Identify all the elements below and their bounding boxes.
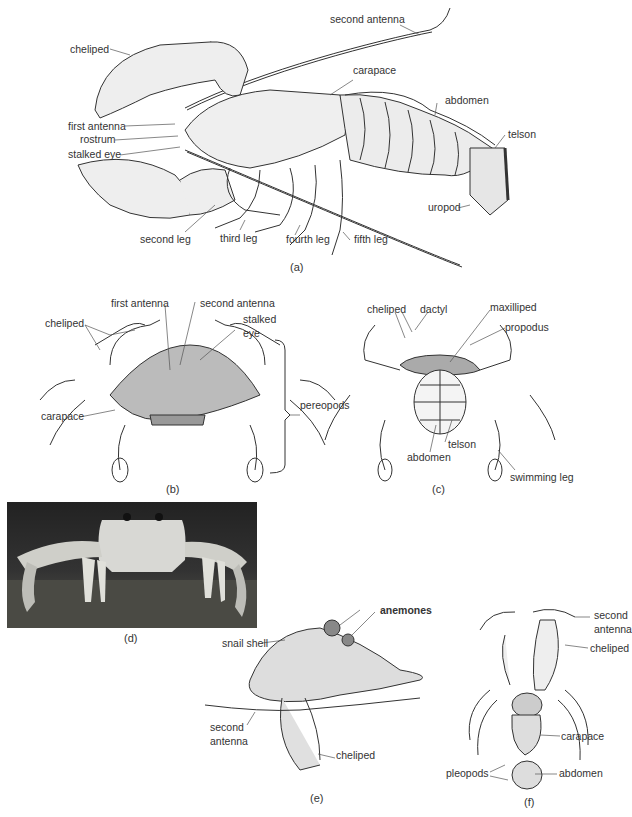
ghost-crab-photo xyxy=(7,502,257,628)
label-second-antenna: second antenna xyxy=(200,298,275,310)
hermit-crab-body-drawing xyxy=(469,609,588,789)
label-stalked-eye: stalked eye xyxy=(68,149,121,161)
label-carapace: carapace xyxy=(561,731,604,743)
label-maxilliped: maxilliped xyxy=(490,302,537,314)
lobster-drawing xyxy=(78,8,508,267)
label-cheliped: cheliped xyxy=(70,44,109,56)
label-antenna: antenna xyxy=(594,624,632,636)
caption-a: (a) xyxy=(290,261,303,273)
label-abdomen: abdomen xyxy=(559,768,603,780)
label-telson: telson xyxy=(508,129,536,141)
label-abdomen: abdomen xyxy=(445,95,489,107)
crab-dorsal-drawing xyxy=(40,320,335,482)
label-abdomen: abdomen xyxy=(407,452,451,464)
label-antenna: antenna xyxy=(210,736,248,748)
label-pleopods: pleopods xyxy=(446,768,489,780)
caption-d: (d) xyxy=(124,632,137,644)
label-pereopods: pereopods xyxy=(300,400,350,412)
caption-c: (c) xyxy=(432,483,445,495)
label-stalked: stalked xyxy=(243,314,276,326)
label-swimming-leg: swimming leg xyxy=(510,472,574,484)
caption-b: (b) xyxy=(166,483,179,495)
label-first-antenna: first antenna xyxy=(111,298,169,310)
label-propodus: propodus xyxy=(505,322,549,334)
label-carapace: carapace xyxy=(41,411,84,423)
label-second: second xyxy=(594,610,628,622)
label-fifth-leg: fifth leg xyxy=(354,234,388,246)
label-cheliped: cheliped xyxy=(45,318,84,330)
label-telson: telson xyxy=(448,439,476,451)
label-eye: eye xyxy=(243,328,260,340)
label-third-leg: third leg xyxy=(220,233,257,245)
label-cheliped: cheliped xyxy=(367,304,406,316)
label-rostrum: rostrum xyxy=(80,134,116,146)
label-second-leg: second leg xyxy=(140,234,191,246)
label-first-antenna: first antenna xyxy=(68,121,126,133)
label-uropod: uropod xyxy=(428,202,461,214)
label-fourth-leg: fourth leg xyxy=(286,234,330,246)
label-second-antenna: second antenna xyxy=(330,14,405,26)
label-second: second xyxy=(210,722,244,734)
label-anemones: anemones xyxy=(380,605,432,617)
label-carapace: carapace xyxy=(353,65,396,77)
caption-f: (f) xyxy=(524,796,534,808)
label-snail-shell: snail shell xyxy=(222,638,268,650)
label-cheliped: cheliped xyxy=(590,643,629,655)
label-cheliped: cheliped xyxy=(336,750,375,762)
caption-e: (e) xyxy=(310,792,323,804)
label-dactyl: dactyl xyxy=(420,304,447,316)
